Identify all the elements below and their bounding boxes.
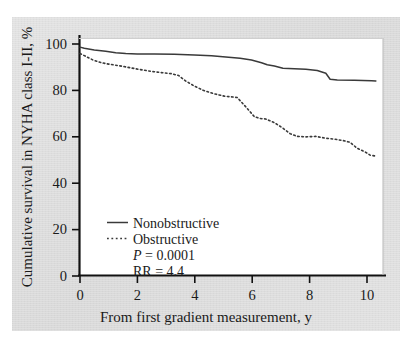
annotation-relative-risk: RR = 4.4	[133, 264, 184, 279]
legend-label-obstructive: Obstructive	[133, 232, 198, 247]
legend-label-nonobstructive: Nonobstructive	[133, 216, 219, 231]
p-value-text: = 0.0001	[142, 248, 195, 263]
x-tick-label-10: 10	[360, 287, 375, 303]
y-tick-label-60: 60	[53, 128, 68, 144]
figure-panel: 100 80 60 40 20 0 0 2 4 6 8 10 From firs…	[12, 17, 400, 331]
plot-background	[79, 38, 383, 276]
y-tick-label-80: 80	[53, 82, 68, 98]
x-tick-label-8: 8	[306, 287, 313, 303]
x-tick-label-6: 6	[249, 287, 256, 303]
p-symbol: P	[132, 248, 142, 263]
x-axis-label: From first gradient measurement, y	[100, 309, 313, 325]
y-axis-label: Cumulative survival in NYHA class I-II, …	[19, 27, 35, 287]
survival-chart: 100 80 60 40 20 0 0 2 4 6 8 10 From firs…	[12, 17, 400, 331]
y-tick-group	[72, 44, 79, 276]
y-tick-label-20: 20	[53, 221, 68, 237]
y-tick-label-0: 0	[60, 268, 67, 284]
x-tick-label-0: 0	[76, 287, 83, 303]
y-tick-label-40: 40	[53, 175, 68, 191]
x-tick-label-2: 2	[134, 287, 141, 303]
x-tick-group	[80, 276, 367, 283]
x-tick-label-4: 4	[191, 287, 199, 303]
annotation-p-value: P = 0.0001	[132, 248, 195, 263]
y-tick-label-100: 100	[45, 36, 67, 52]
